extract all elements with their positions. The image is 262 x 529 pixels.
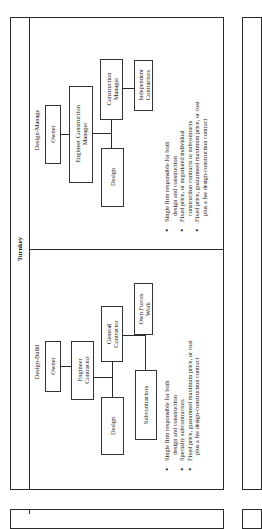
general-contractor-label: General Contractor <box>105 320 119 347</box>
bullet-item: Fixed price, or negotiated individualcon… <box>178 101 193 232</box>
connector <box>145 335 146 370</box>
subcontractors-label: Subcontractors <box>142 386 149 424</box>
bullet-item: Specialty subcontractors <box>178 340 186 471</box>
panel-divider <box>29 249 224 250</box>
bullet-item: Fixed price, guaranteed maximum price, o… <box>186 340 201 471</box>
design-label: Design <box>109 417 116 435</box>
connector <box>112 362 113 397</box>
owner-label: Owner <box>49 125 56 142</box>
independent-contractors-label: Independent Contractors <box>136 69 150 101</box>
connector <box>111 120 112 148</box>
connector <box>61 134 69 135</box>
connector <box>93 133 112 134</box>
design-label: Design <box>109 168 116 186</box>
bullet-item: Single firm responsible for bothdesign a… <box>163 340 178 471</box>
construction-manager-label: Construction Manager <box>104 72 118 105</box>
header-divider <box>29 17 30 490</box>
connector <box>123 335 145 336</box>
adjacent-frame-bottom <box>10 509 224 529</box>
panel-label: Design-Manage <box>33 110 40 151</box>
engineer-construction-manager-label: Engineer Construction Manager <box>74 105 88 163</box>
engineer-contractor-label: Engineer Contractor <box>75 356 89 383</box>
bullet-item: Single firm responsible for bothdesign a… <box>163 101 178 232</box>
connector <box>123 88 134 89</box>
owner-label: Owner <box>49 357 56 374</box>
adjacent-frame-corner <box>242 509 262 529</box>
connector <box>61 366 71 367</box>
adjacent-frame-right <box>242 17 262 490</box>
own-forces-work-label: Own Forces Work <box>136 293 150 324</box>
section-title: Turnkey <box>16 237 23 261</box>
bullet-item: Fixed price, guaranteed maximum price, o… <box>193 101 208 232</box>
bullet-list: Single firm responsible for bothdesign a… <box>163 340 201 471</box>
adjacent-frame-bottom-divider <box>29 509 30 514</box>
connector <box>94 377 112 378</box>
bullet-list: Single firm responsible for bothdesign a… <box>163 101 209 232</box>
panel-label: Design-Build <box>33 345 40 379</box>
